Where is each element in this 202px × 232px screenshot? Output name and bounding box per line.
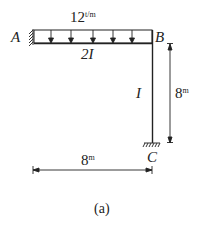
node-c-label: C	[147, 149, 157, 166]
column-stiffness-label: I	[136, 85, 141, 102]
height-dim-label: 8m	[175, 85, 189, 102]
load-arrows	[49, 30, 135, 43]
span-dim-label: 8m	[81, 152, 95, 169]
fixed-support-a	[29, 29, 33, 46]
fixed-support-c	[143, 143, 160, 147]
height-dimension	[167, 44, 173, 144]
node-a-label: A	[11, 29, 20, 46]
load-label: 12t/m	[70, 9, 96, 26]
beam-stiffness-label: 2I	[81, 46, 94, 63]
frame-diagram	[0, 0, 202, 232]
node-b-label: B	[155, 29, 164, 46]
figure-caption: (a)	[94, 201, 110, 217]
